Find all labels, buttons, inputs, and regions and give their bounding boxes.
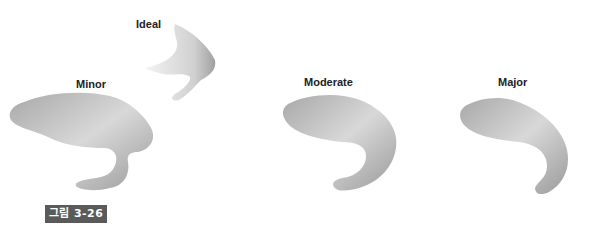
shape-minor (6, 90, 156, 195)
shape-moderate (280, 90, 400, 195)
label-moderate: Moderate (304, 76, 353, 88)
shape-major (455, 92, 575, 196)
label-minor: Minor (76, 78, 106, 90)
label-major: Major (498, 76, 527, 88)
shape-ideal (145, 22, 220, 104)
figure-caption-badge: 그림 3-26 (45, 205, 107, 223)
